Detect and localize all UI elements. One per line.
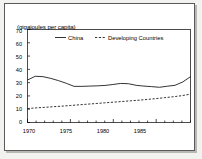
plot-area xyxy=(5,4,196,152)
plot-frame xyxy=(28,30,191,123)
chart-figure: (gigajoules per capita) 70 60 50 40 30 2… xyxy=(0,0,202,159)
series-line-china xyxy=(28,76,191,87)
chart-outer-frame: (gigajoules per capita) 70 60 50 40 30 2… xyxy=(4,3,195,151)
x-axis-ticks xyxy=(28,119,191,123)
series-line-developing-countries xyxy=(28,94,191,108)
